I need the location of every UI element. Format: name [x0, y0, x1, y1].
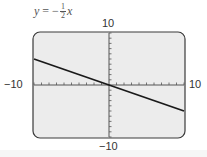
x-max-label: 10 — [189, 78, 201, 90]
x-min-label: −10 — [4, 78, 23, 90]
y-min-label: −10 — [99, 140, 118, 152]
y-max-label: 10 — [102, 17, 114, 29]
